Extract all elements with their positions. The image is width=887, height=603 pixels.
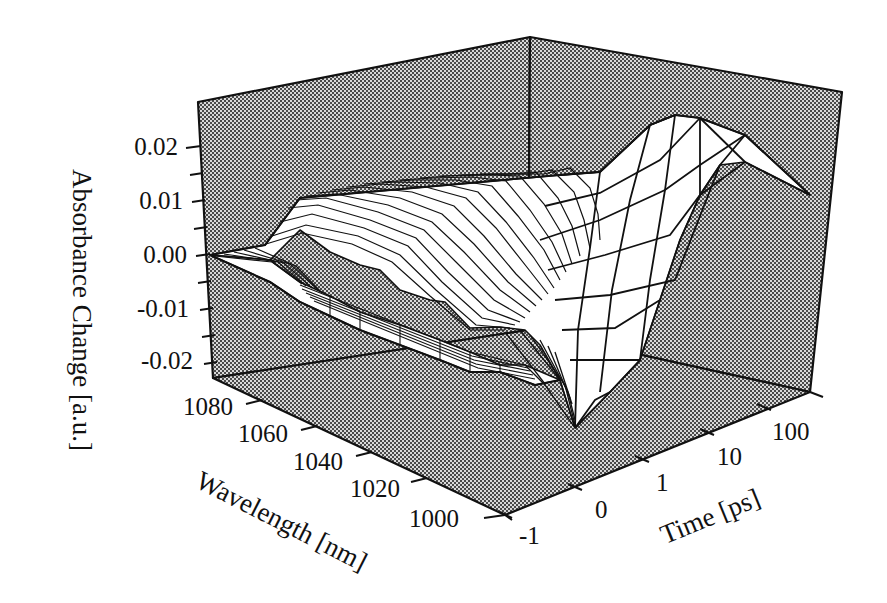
- wavelength-tick-label: 1060: [238, 420, 288, 448]
- wavelength-tick-label: 1000: [409, 505, 459, 533]
- z-tick-label: 0.01: [93, 187, 183, 215]
- wavelength-tick-label: 1040: [293, 448, 343, 476]
- wavelength-tick-label: 1020: [350, 475, 400, 503]
- z-tick-label: 0.00: [97, 241, 187, 269]
- z-tick-label: 0.02: [88, 133, 178, 161]
- z-tick-label: -0.01: [99, 295, 189, 323]
- time-tick-label: 1: [656, 469, 669, 497]
- time-tick-label: 100: [772, 418, 810, 446]
- time-tick-label: 10: [717, 443, 742, 471]
- time-tick-label: -1: [519, 522, 540, 550]
- wavelength-tick-label: 1080: [183, 393, 233, 421]
- z-tick-label: -0.02: [103, 347, 193, 375]
- time-tick-label: 0: [595, 496, 608, 524]
